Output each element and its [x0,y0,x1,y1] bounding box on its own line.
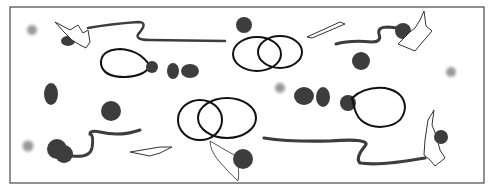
diagram-figure [0,0,493,193]
nucleus-pair-b [316,87,330,107]
diagram-canvas [0,0,493,193]
nucleus-left-2 [101,101,121,121]
nucleus-middle-right [352,52,370,70]
nucleus-top-middle [236,17,252,33]
nucleus-left [44,83,58,105]
nucleus-pair-a [294,87,314,105]
